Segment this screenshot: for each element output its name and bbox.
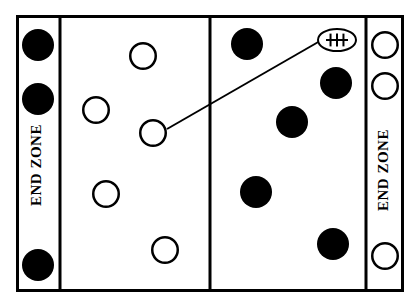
- left-endzone-label: END ZONE: [28, 124, 44, 206]
- right-endzone-label: END ZONE: [375, 129, 391, 211]
- field-canvas: END ZONE END ZONE: [0, 0, 420, 304]
- player-marker-open-o1: [130, 43, 156, 69]
- player-marker-dark-d2: [22, 83, 54, 115]
- player-marker-dark-d6: [276, 106, 308, 138]
- player-marker-open-o2: [83, 97, 109, 123]
- player-marker-dark-d4: [231, 28, 263, 60]
- player-marker-dark-d5: [320, 67, 352, 99]
- player-marker-dark-d8: [317, 228, 349, 260]
- player-marker-dark-d7: [240, 176, 272, 208]
- player-marker-dark-d3: [22, 249, 54, 281]
- player-marker-open-o5: [152, 237, 178, 263]
- player-marker-open-o4: [93, 181, 119, 207]
- player-marker-open-o7: [372, 73, 398, 99]
- football-icon: [318, 29, 356, 51]
- player-marker-dark-d1: [22, 29, 54, 61]
- player-marker-open-o3: [140, 120, 166, 146]
- football-field-diagram: END ZONE END ZONE: [0, 0, 420, 304]
- player-marker-open-o8: [372, 243, 398, 269]
- player-marker-open-o6: [372, 32, 398, 58]
